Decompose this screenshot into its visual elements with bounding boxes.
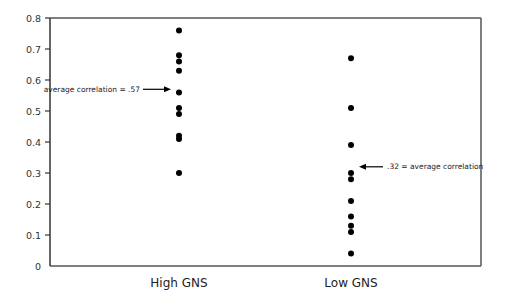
data-point — [348, 176, 354, 182]
data-point — [348, 251, 354, 257]
y-axis: 00.10.20.30.40.50.60.70.8 — [26, 13, 50, 272]
data-point — [176, 52, 182, 58]
data-point — [176, 58, 182, 64]
plot-frame — [50, 18, 481, 266]
data-point — [348, 229, 354, 235]
data-point — [348, 55, 354, 61]
data-point — [176, 105, 182, 111]
annotation-text: average correlation = .57 — [44, 85, 141, 94]
y-tick-label: 0.4 — [26, 137, 41, 148]
data-point — [348, 213, 354, 219]
data-point — [176, 89, 182, 95]
x-axis-labels: High GNSLow GNS — [150, 276, 377, 290]
arrow-head-icon — [164, 86, 171, 92]
arrow-head-icon — [359, 164, 366, 170]
y-tick-label: 0.1 — [26, 230, 41, 241]
scatter-chart: 00.10.20.30.40.50.60.70.8 High GNSLow GN… — [0, 0, 506, 298]
y-tick-label: 0.6 — [26, 75, 41, 86]
x-category-label: Low GNS — [324, 276, 377, 290]
data-point — [348, 142, 354, 148]
data-point — [348, 198, 354, 204]
y-tick-label: 0.2 — [26, 199, 41, 210]
y-tick-label: 0.5 — [26, 106, 41, 117]
data-point — [176, 27, 182, 33]
x-category-label: High GNS — [150, 276, 207, 290]
data-point — [176, 170, 182, 176]
y-tick-label: 0.3 — [26, 168, 41, 179]
data-point — [348, 170, 354, 176]
y-tick-label: 0.7 — [26, 44, 41, 55]
data-point — [176, 111, 182, 117]
y-tick-label: 0 — [35, 261, 41, 272]
annotations: average correlation = .57.32 = average c… — [44, 85, 484, 172]
annotation-text: .32 = average correlation — [387, 162, 484, 171]
data-points — [176, 27, 354, 256]
data-point — [348, 105, 354, 111]
y-tick-label: 0.8 — [26, 13, 41, 24]
data-point — [348, 223, 354, 229]
data-point — [176, 68, 182, 74]
data-point — [176, 136, 182, 142]
